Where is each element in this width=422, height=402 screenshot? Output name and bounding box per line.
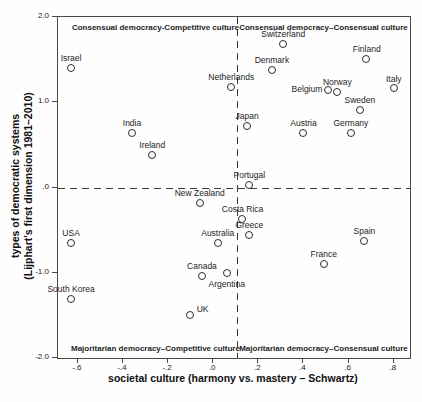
y-axis-tickmark	[52, 16, 57, 17]
data-point-label-sweden: Sweden	[345, 96, 376, 105]
x-axis-tick-label: .0	[209, 363, 216, 373]
y-axis-tickmark	[52, 357, 57, 358]
data-point-label-canada: Canada	[187, 262, 217, 271]
y-axis-tickmark	[52, 272, 57, 273]
data-point-label-israel: Israel	[61, 54, 82, 63]
data-point-label-netherlands: Netherlands	[208, 73, 254, 82]
x-axis-tick-label: .8	[389, 363, 396, 373]
data-point-label-italy: Italy	[386, 75, 402, 84]
x-axis-tick-label: .6	[344, 363, 351, 373]
data-point-south-korea	[67, 295, 75, 303]
data-point-italy	[390, 84, 398, 92]
data-point-label-uk: UK	[197, 305, 209, 314]
data-point-label-spain: Spain	[354, 227, 376, 236]
data-point-finland	[362, 55, 370, 63]
zero-reference-line-horizontal	[58, 188, 410, 189]
data-point-label-costa-rica: Costa Rica	[222, 205, 264, 214]
data-point-label-india: India	[123, 119, 141, 128]
data-point-switzerland	[279, 40, 287, 48]
data-point-label-france: France	[311, 250, 337, 259]
data-point-ireland	[148, 151, 156, 159]
data-point-label-belgium: Belgium	[292, 85, 323, 94]
data-point-denmark	[268, 66, 276, 74]
data-point-label-ireland: Ireland	[139, 141, 165, 150]
data-point-india	[128, 129, 136, 137]
y-axis-tick-label: -2.0	[9, 352, 49, 362]
x-axis-tick-label: .2	[254, 363, 261, 373]
x-axis-title: societal culture (harmony vs. mastery – …	[57, 372, 409, 384]
data-point-label-finland: Finland	[353, 45, 381, 54]
data-point-usa	[67, 239, 75, 247]
data-point-belgium	[324, 86, 332, 94]
data-point-label-denmark: Denmark	[255, 56, 289, 65]
data-point-label-switzerland: Switzerland	[261, 30, 305, 39]
y-axis-tickmark	[52, 187, 57, 188]
data-point-israel	[67, 64, 75, 72]
data-point-label-austria: Austria	[290, 119, 316, 128]
data-point-label-germany: Germany	[333, 119, 368, 128]
x-axis-tick-label: -.6	[72, 363, 81, 373]
quadrant-label-bottom-left: Majoritarian democracy–Competitive cultu…	[71, 344, 240, 353]
data-point-greece	[245, 231, 253, 239]
data-point-uk	[186, 311, 194, 319]
data-point-norway	[333, 88, 341, 96]
data-point-label-norway: Norway	[323, 78, 352, 87]
data-point-label-portugal: Portugal	[233, 171, 265, 180]
data-point-label-usa: USA	[62, 229, 79, 238]
data-point-france	[320, 260, 328, 268]
data-point-japan	[243, 122, 251, 130]
data-point-germany	[347, 129, 355, 137]
data-point-argentina	[223, 269, 231, 277]
y-axis-tick-label: 1.0	[9, 96, 49, 106]
quadrant-label-top-left: Consensual democracy-Competitive culture	[72, 23, 239, 32]
data-point-netherlands	[227, 83, 235, 91]
y-axis-tickmark	[52, 101, 57, 102]
data-point-portugal	[245, 181, 253, 189]
data-point-sweden	[356, 106, 364, 114]
y-axis-tick-label: -1.0	[9, 267, 49, 277]
data-point-label-argentina: Argentina	[209, 280, 245, 289]
x-axis-tick-label: -.4	[117, 363, 126, 373]
data-point-label-japan: Japan	[235, 112, 258, 121]
data-point-label-south-korea: South Korea	[47, 285, 94, 294]
data-point-new-zealand	[196, 199, 204, 207]
quadrant-label-bottom-right: Majoritarian democracy–Consensual cultur…	[239, 344, 408, 353]
quadrant-divider-line-vertical	[237, 17, 238, 358]
x-axis-tick-label: -.2	[162, 363, 171, 373]
data-point-label-new-zealand: New Zealand	[175, 189, 225, 198]
plot-area: Consensual democracy-Competitive culture…	[57, 16, 411, 359]
y-axis-tick-label: .0	[9, 182, 49, 192]
data-point-austria	[299, 129, 307, 137]
data-point-spain	[360, 237, 368, 245]
data-point-label-australia: Australia	[201, 229, 234, 238]
x-axis-tick-label: .4	[299, 363, 306, 373]
scatter-figure: types of democratic systems (Lijphart's …	[0, 0, 422, 402]
data-point-australia	[214, 239, 222, 247]
data-point-label-greece: Greece	[235, 221, 263, 230]
y-axis-tick-label: 2.0	[9, 11, 49, 21]
data-point-canada	[198, 272, 206, 280]
